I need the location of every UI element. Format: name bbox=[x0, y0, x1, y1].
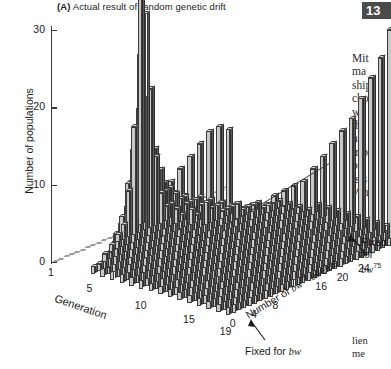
x-axis-tick-label: 15 bbox=[183, 313, 195, 325]
z-axis-tick-label: 0 bbox=[230, 317, 236, 329]
bar-front-face bbox=[378, 58, 383, 236]
bar-side-face bbox=[147, 11, 150, 229]
x-axis-tick-label: 10 bbox=[135, 299, 147, 311]
body-text-line: Mit bbox=[352, 52, 391, 65]
bar-side-face bbox=[213, 205, 216, 222]
y-axis-tick bbox=[51, 262, 57, 263]
x-axis-tick-label: 5 bbox=[87, 282, 93, 294]
fixed-for-bw-arrow bbox=[244, 318, 268, 342]
x-axis-tick-label: 1 bbox=[48, 266, 54, 278]
bar-front-face bbox=[115, 234, 120, 242]
y-axis-tick bbox=[51, 185, 57, 186]
bar-side-face bbox=[353, 115, 356, 225]
bar-front-face bbox=[368, 78, 373, 233]
body-text-line: lien bbox=[352, 335, 391, 348]
bar-side-face bbox=[382, 55, 385, 234]
y-axis-tick-label: 30 bbox=[17, 23, 45, 35]
bar-side-face bbox=[305, 178, 308, 210]
bar-side-face bbox=[163, 190, 166, 222]
bar-side-face bbox=[178, 206, 181, 223]
bar-front-face bbox=[387, 30, 391, 239]
bar-side-face bbox=[187, 201, 190, 226]
bar-side-face bbox=[152, 86, 155, 227]
bar-side-face bbox=[344, 128, 347, 222]
bar-side-face bbox=[157, 153, 160, 224]
bar-side-face bbox=[324, 153, 327, 216]
bar-side-face bbox=[329, 205, 332, 222]
bar-side-face bbox=[373, 75, 376, 231]
bar-side-face bbox=[208, 199, 211, 224]
bar-side-face bbox=[377, 220, 380, 237]
bar-front-face bbox=[102, 254, 107, 262]
y-axis-tick bbox=[51, 107, 57, 108]
y-axis-line bbox=[51, 26, 52, 264]
bar-side-face bbox=[130, 188, 133, 236]
chart-plot-area: 0102030 Number of populations 15101519 G… bbox=[0, 0, 330, 369]
bar-side-face bbox=[172, 200, 175, 225]
annotation-fixed-for-bw75: Fixedforbw75 bbox=[361, 236, 387, 276]
y-axis-tick-label: 0 bbox=[17, 255, 45, 267]
z-axis-tick-label: 16 bbox=[315, 280, 327, 292]
bar-front-face bbox=[358, 98, 363, 230]
bar-side-face bbox=[319, 202, 322, 219]
chapter-badge: 13 bbox=[362, 2, 391, 19]
bar-front-face bbox=[138, 0, 143, 225]
bar-side-face bbox=[168, 203, 171, 220]
figure-root: (A) Actual result of random genetic drif… bbox=[0, 0, 391, 369]
bar-side-face bbox=[142, 0, 145, 224]
annotation-fixed-for-bw: Fixed for bw bbox=[245, 345, 301, 358]
bar-side-face bbox=[202, 202, 205, 227]
bar-side-face bbox=[334, 141, 337, 220]
bar-side-face bbox=[363, 95, 366, 228]
bars-layer bbox=[0, 0, 330, 369]
bar-side-face bbox=[348, 211, 351, 228]
y-axis-tick bbox=[51, 30, 57, 31]
bar-side-face bbox=[295, 183, 298, 208]
bar-front-face bbox=[109, 244, 114, 252]
z-axis-tick-label: 20 bbox=[337, 271, 349, 283]
bar-front-face bbox=[91, 266, 96, 274]
body-text-footer: lienme bbox=[352, 335, 391, 360]
y-axis-title: Number of populations bbox=[23, 56, 35, 226]
body-text-line: me bbox=[352, 348, 391, 361]
